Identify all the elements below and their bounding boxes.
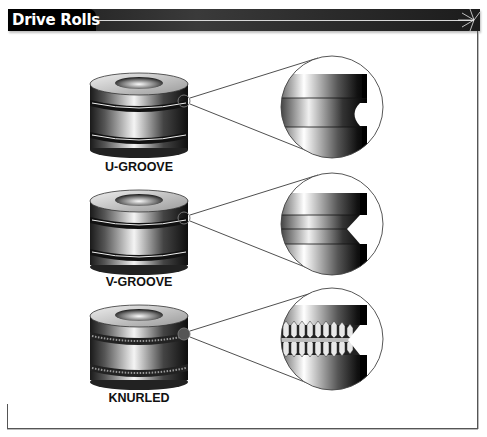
knurled-roll bbox=[90, 305, 190, 390]
v-groove-magnified-detail bbox=[270, 170, 387, 280]
knurled-label: KNURLED bbox=[79, 391, 199, 405]
v-groove-label: V-GROOVE bbox=[79, 275, 199, 289]
drive-rolls-illustration bbox=[0, 0, 487, 437]
u-groove-magnified-detail bbox=[270, 56, 387, 160]
u-groove-roll bbox=[90, 73, 190, 158]
knurled-magnified-detail bbox=[270, 285, 387, 395]
v-groove-roll bbox=[90, 190, 190, 275]
u-groove-label: U-GROOVE bbox=[79, 160, 199, 174]
